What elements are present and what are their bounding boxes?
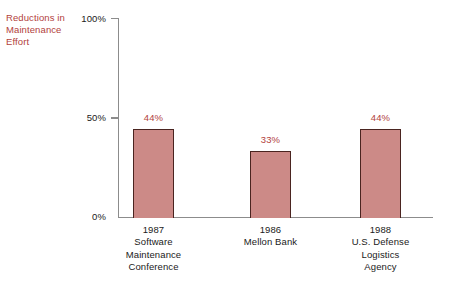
- y-tick-mark-100: [111, 18, 118, 19]
- bar-1986-mellon-bank[interactable]: [250, 151, 291, 218]
- plot-area: 100% 50% 0% 44% 1987 Software Maintenanc…: [0, 0, 450, 285]
- bar-1988-us-defense-logistics-agency[interactable]: [360, 129, 401, 217]
- bar-value-label-1: 44%: [124, 112, 184, 123]
- bar-category-label-1: 1987 Software Maintenance Conference: [94, 224, 214, 274]
- y-tick-label-0: 0%: [46, 211, 106, 222]
- y-axis-line: [118, 18, 119, 218]
- y-tick-label-50: 50%: [46, 112, 106, 123]
- y-tick-label-100: 100%: [46, 13, 106, 24]
- bar-value-label-3: 44%: [351, 112, 411, 123]
- bar-1987-software-maintenance-conference[interactable]: [133, 129, 174, 217]
- chart-page: Reductions in Maintenance Effort 100% 50…: [0, 0, 450, 285]
- bar-category-label-3: 1988 U.S. Defense Logistics Agency: [321, 224, 441, 274]
- bar-category-label-2: 1986 Mellon Bank: [211, 224, 331, 249]
- bar-value-label-2: 33%: [241, 134, 301, 145]
- y-tick-mark-50: [111, 117, 118, 118]
